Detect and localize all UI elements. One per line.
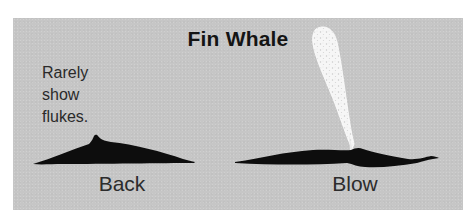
- blow-label: Blow: [295, 172, 415, 196]
- note-line: Rarely: [42, 62, 88, 84]
- whale-back-silhouette: [33, 135, 195, 165]
- back-label: Back: [62, 172, 182, 196]
- whale-blow-silhouette: [235, 148, 439, 167]
- figure-title: Fin Whale: [13, 27, 463, 51]
- flukes-note: Rarely show flukes.: [42, 62, 88, 128]
- illustration-panel: Fin Whale Rarely show flukes. Back Blow: [13, 18, 463, 210]
- note-line: flukes.: [42, 106, 88, 128]
- note-line: show: [42, 84, 88, 106]
